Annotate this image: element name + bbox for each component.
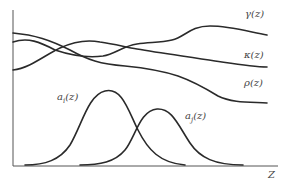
rho-label: ρ(z) [244,78,263,88]
a-i-label-tail: (z) [65,91,78,102]
diagram-canvas [0,0,287,185]
kappa-label: κ(z) [244,50,264,60]
a-j-label-tail: (z) [193,110,206,121]
gamma-label: γ(z) [245,9,264,19]
a-i-curve [25,91,185,165]
x-axis-label: Z [268,170,275,180]
a-i-label: ai(z) [57,92,78,105]
a-j-curve [80,109,243,165]
a-j-label: aj(z) [185,111,206,124]
kappa-curve [13,41,267,70]
